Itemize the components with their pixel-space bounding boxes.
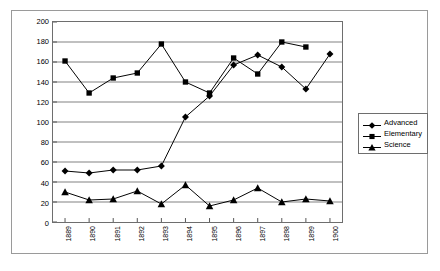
x-axis-tick-label: 1894 <box>186 226 193 242</box>
y-axis-tick-label: 80 <box>41 139 49 147</box>
x-axis-tick-label: 1899 <box>308 226 315 242</box>
y-axis-tick-label: 40 <box>41 180 49 188</box>
diamond-marker-icon <box>362 117 382 128</box>
x-axis-tick-label: 1898 <box>283 226 290 242</box>
x-axis-tick-label: 1889 <box>65 226 72 242</box>
x-axis-tick-label: 1900 <box>332 226 339 242</box>
x-axis-tick-label: 1895 <box>211 226 218 242</box>
x-axis-tick-label: 1890 <box>89 226 96 242</box>
triangle-marker-icon <box>362 139 382 150</box>
x-axis-tick-label: 1897 <box>259 226 266 242</box>
data-series-layer <box>53 22 342 222</box>
y-axis-tick-label: 200 <box>36 18 49 26</box>
x-axis-tick-label: 1892 <box>138 226 145 242</box>
plot-area: 020406080100120140160180200 188918901891… <box>52 21 343 223</box>
legend-label: Advanced <box>382 119 417 127</box>
y-axis-tick-label: 140 <box>36 79 49 87</box>
y-axis-tick-label: 100 <box>36 119 49 127</box>
chart-figure: 020406080100120140160180200 188918901891… <box>11 10 428 254</box>
chart-legend: AdvancedElementaryScience <box>358 113 428 154</box>
y-axis-tick-label: 120 <box>36 99 49 107</box>
y-axis-tick-label: 20 <box>41 200 49 208</box>
legend-item-science[interactable]: Science <box>362 139 422 150</box>
legend-label: Science <box>382 141 411 149</box>
x-axis-tick-label: 1893 <box>162 226 169 242</box>
y-axis-tick-label: 160 <box>36 59 49 67</box>
y-axis-tick-label: 180 <box>36 38 49 46</box>
y-axis-tick-label: 60 <box>41 160 49 168</box>
legend-label: Elementary <box>382 130 422 138</box>
x-axis-tick-label: 1891 <box>114 226 121 242</box>
square-marker-icon <box>362 128 382 139</box>
y-axis-tick-label: 0 <box>45 220 49 228</box>
legend-item-advanced[interactable]: Advanced <box>362 117 422 128</box>
legend-item-elementary[interactable]: Elementary <box>362 128 422 139</box>
x-axis-tick-label: 1896 <box>235 226 242 242</box>
